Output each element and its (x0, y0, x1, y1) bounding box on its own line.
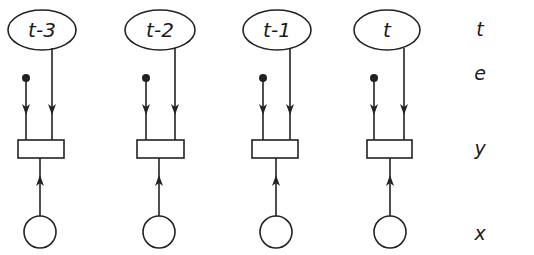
time-column: t-2 (125, 10, 195, 248)
time-column: t (354, 10, 420, 248)
output-node-box (18, 140, 64, 158)
time-node-label: t (383, 18, 392, 42)
row-label-time: t (476, 18, 485, 40)
time-node-label: t-1 (263, 18, 291, 42)
time-column: t-3 (8, 10, 76, 248)
time-node-label: t-2 (146, 18, 174, 42)
row-label-evidence: e (474, 62, 486, 84)
time-column: t-1 (243, 10, 311, 248)
output-node-box (252, 140, 298, 158)
state-node-circle (260, 216, 292, 248)
time-columns: t-3t-2t-1t (8, 10, 420, 248)
time-node-label: t-3 (28, 18, 56, 42)
truncated-caption-fragment (330, 0, 490, 3)
state-node-circle (374, 216, 406, 248)
row-label-output: y (473, 137, 486, 159)
row-label-state: x (473, 222, 486, 244)
state-node-circle (24, 216, 56, 248)
output-node-box (367, 140, 412, 158)
state-node-circle (143, 216, 175, 248)
output-node-box (137, 140, 184, 158)
time-series-diagram: t-3t-2t-1t teyx (0, 0, 534, 255)
row-labels: teyx (473, 18, 486, 244)
